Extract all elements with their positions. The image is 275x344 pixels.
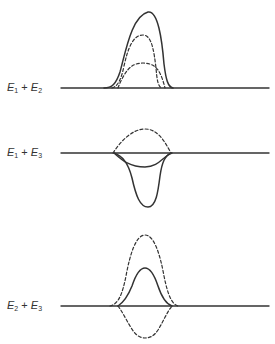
dashed-component-low bbox=[118, 63, 165, 88]
solid-sum-curve bbox=[104, 12, 173, 88]
dashed-component-up bbox=[113, 129, 171, 153]
dashed-component-down bbox=[118, 306, 172, 338]
panel-e2-e3 bbox=[61, 235, 269, 338]
panel-e1-e2 bbox=[61, 12, 269, 88]
dashed-component-up bbox=[110, 235, 178, 306]
dashed-component-tall bbox=[112, 35, 162, 88]
panel-e1-e3 bbox=[61, 129, 269, 207]
waveform-diagram bbox=[0, 0, 275, 344]
solid-large-dip bbox=[114, 153, 172, 207]
